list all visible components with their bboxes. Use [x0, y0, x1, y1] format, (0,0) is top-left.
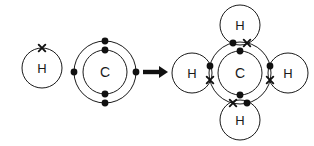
reaction-arrow-head	[159, 66, 168, 78]
bond-top-carbon-electron	[230, 40, 237, 47]
reaction-arrow-shaft	[143, 70, 159, 74]
product-hydrogen-left-label: H	[187, 66, 196, 81]
reactant-carbon-outer-electron-1	[102, 100, 109, 107]
reactant-carbon-outer-electron-2	[71, 69, 78, 76]
reactant-carbon-outer-electron-3	[133, 69, 140, 76]
product-hydrogen-top-label: H	[235, 18, 244, 33]
product-hydrogen-bottom-label: H	[235, 113, 244, 128]
reactant-hydrogen-label: H	[37, 61, 46, 76]
reactant-carbon-inner-electron-0	[102, 47, 109, 54]
bond-right-carbon-electron	[267, 63, 274, 70]
product-carbon-label: C	[235, 65, 245, 81]
product-carbon-inner-electron-0	[237, 48, 244, 55]
product-hydrogen-right-label: H	[283, 66, 292, 81]
diagram-svg	[0, 0, 314, 146]
reactant-carbon-label: C	[100, 64, 110, 80]
reactant-carbon-outer-electron-0	[102, 38, 109, 45]
product-carbon-inner-electron-1	[237, 92, 244, 99]
reactant-carbon-inner-electron-1	[102, 91, 109, 98]
bond-left-carbon-electron	[207, 63, 214, 70]
bond-bottom-carbon-electron	[244, 100, 251, 107]
diagram-canvas: H C C H H H H	[0, 0, 314, 146]
